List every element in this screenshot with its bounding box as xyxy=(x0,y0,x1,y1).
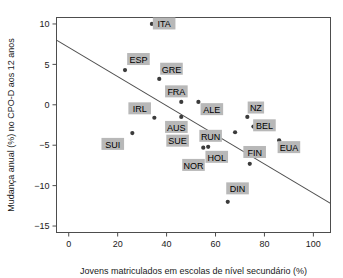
point-label: FRA xyxy=(167,87,185,97)
data-point xyxy=(196,100,200,104)
y-tick-label: 5 xyxy=(44,60,49,70)
y-tick-label: −15 xyxy=(34,221,49,231)
x-tick-label: 20 xyxy=(113,239,123,249)
chart-canvas: 1050−5−10−15020406080100Jovens matricula… xyxy=(0,0,343,278)
x-tick-label: 60 xyxy=(211,239,221,249)
data-point xyxy=(152,116,156,120)
x-axis-title: Jovens matriculados em escolas de nível … xyxy=(80,266,307,276)
plot-frame xyxy=(57,18,331,233)
point-label: HOL xyxy=(207,153,226,163)
y-tick-label: −5 xyxy=(39,140,49,150)
point-label: EUA xyxy=(280,143,299,153)
data-point xyxy=(245,115,249,119)
point-label: ESP xyxy=(129,55,147,65)
data-point xyxy=(233,130,237,134)
point-label: SUE xyxy=(168,136,187,146)
x-tick-label: 40 xyxy=(162,239,172,249)
data-point xyxy=(206,145,210,149)
data-point xyxy=(248,162,252,166)
point-label: AUS xyxy=(167,123,186,133)
x-tick-label: 0 xyxy=(66,239,71,249)
point-label: ALE xyxy=(203,105,220,115)
point-label: IRL xyxy=(133,104,147,114)
y-tick-label: −10 xyxy=(34,181,49,191)
trend-line xyxy=(57,40,331,203)
x-tick-label: 80 xyxy=(259,239,269,249)
y-tick-label: 0 xyxy=(44,100,49,110)
point-label: FIN xyxy=(247,148,262,158)
point-label: GRE xyxy=(162,65,182,75)
data-point xyxy=(130,131,134,135)
data-point xyxy=(201,146,205,150)
y-tick-label: 10 xyxy=(39,19,49,29)
point-label: ITA xyxy=(157,19,170,29)
point-label: SUI xyxy=(105,140,120,150)
x-tick-label: 100 xyxy=(306,239,321,249)
point-label: DIN xyxy=(230,184,246,194)
point-label: BEL xyxy=(256,121,273,131)
data-point xyxy=(179,100,183,104)
data-point xyxy=(123,68,127,72)
point-label: RUN xyxy=(201,132,221,142)
data-point xyxy=(226,200,230,204)
scatter-chart: 1050−5−10−15020406080100Jovens matricula… xyxy=(0,0,343,278)
point-label: NOR xyxy=(184,161,205,171)
data-point xyxy=(157,77,161,81)
data-point xyxy=(179,115,183,119)
point-label: NZ xyxy=(250,103,262,113)
y-axis-title: Mudança anual (%) no CPO-D aos 12 anos xyxy=(6,38,16,212)
